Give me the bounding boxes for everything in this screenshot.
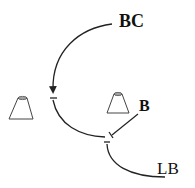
label-lb: LB	[157, 160, 179, 177]
right-cone-icon	[107, 92, 129, 113]
b-inhibition-line	[112, 114, 138, 135]
label-bc: BC	[119, 12, 144, 30]
junction-curve	[53, 100, 105, 137]
label-b: B	[139, 98, 150, 114]
left-cone-icon	[9, 96, 33, 119]
bc-arrow	[53, 24, 112, 90]
